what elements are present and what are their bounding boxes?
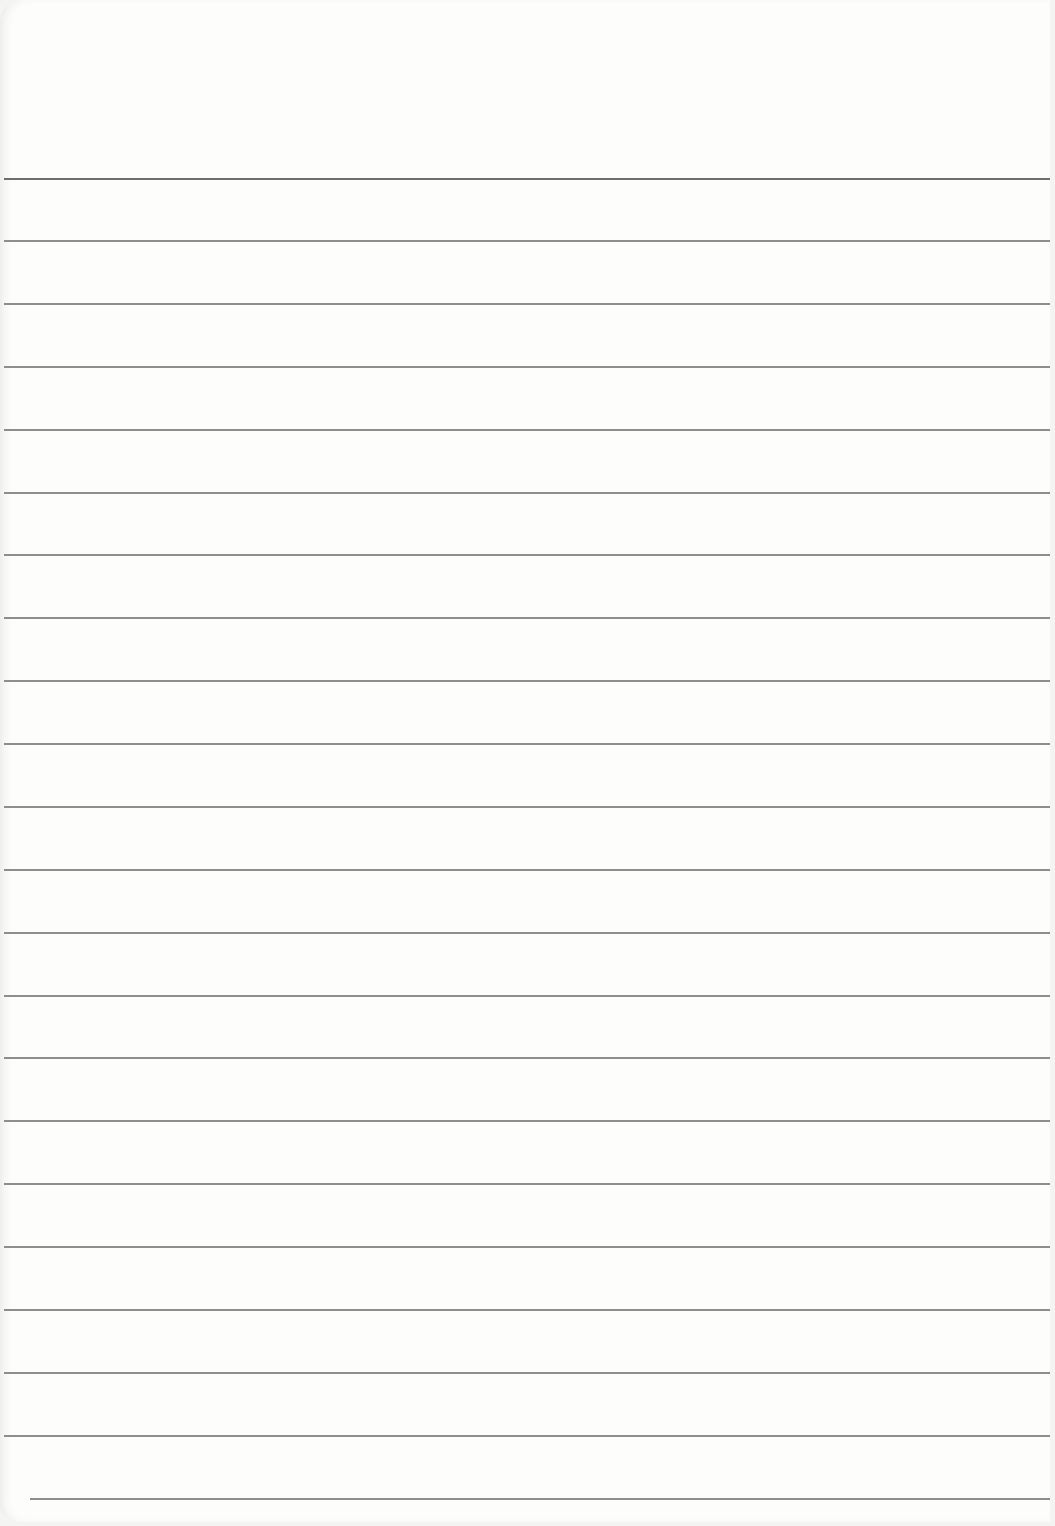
ruled-line: [4, 617, 1050, 619]
ruled-paper: [0, 0, 1050, 1522]
ruled-line: [4, 1246, 1050, 1248]
ruled-line: [4, 240, 1050, 242]
ruled-line: [4, 554, 1050, 556]
ruled-line: [4, 743, 1050, 745]
ruled-line: [4, 366, 1050, 368]
ruled-line: [4, 1183, 1050, 1185]
ruled-line: [4, 806, 1050, 808]
ruled-line: [4, 932, 1050, 934]
ruled-line: [4, 995, 1050, 997]
ruled-line: [4, 429, 1050, 431]
ruled-line: [4, 1309, 1050, 1311]
ruled-line: [4, 1057, 1050, 1059]
ruled-line: [4, 303, 1050, 305]
ruled-line: [4, 1120, 1050, 1122]
ruled-line: [4, 492, 1050, 494]
ruled-line: [4, 869, 1050, 871]
ruled-line: [30, 1498, 1050, 1500]
ruled-line: [4, 1372, 1050, 1374]
ruled-line: [4, 1435, 1050, 1437]
ruled-line: [4, 680, 1050, 682]
ruled-line: [4, 178, 1050, 180]
